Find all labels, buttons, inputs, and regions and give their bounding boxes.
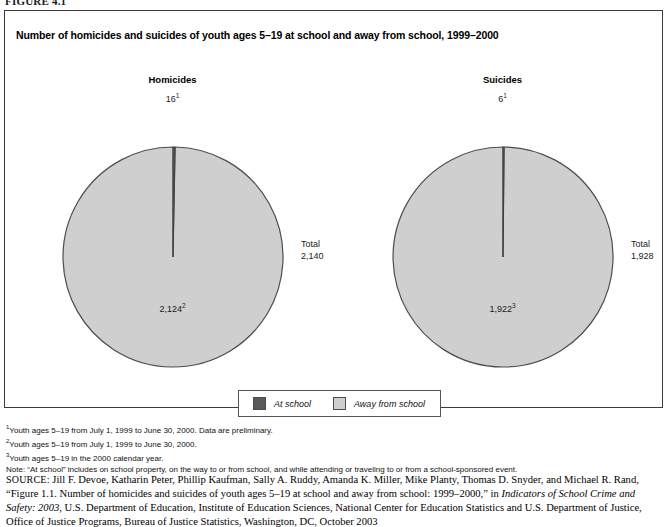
total-value-homicides: 2,140 xyxy=(301,251,324,261)
at-school-footnote-marker-homicides: 1 xyxy=(176,92,180,99)
source-text-2: , U.S. Department of Education, Institut… xyxy=(6,502,642,527)
away-from-school-value-suicides: 1,9223 xyxy=(335,302,669,314)
footnote-2: 2Youth ages 5–19 from July 1, 1999 to Ju… xyxy=(6,436,661,450)
legend-swatch-at-school-icon xyxy=(253,397,266,410)
away-number-suicides: 1,922 xyxy=(489,304,512,314)
chart-legend: At school Away from school xyxy=(238,390,441,417)
away-from-school-value-homicides: 2,1242 xyxy=(5,302,340,314)
total-word-homicides: Total xyxy=(301,239,320,249)
total-label-suicides: Total 1,928 xyxy=(631,239,654,262)
away-number-homicides: 2,124 xyxy=(159,304,182,314)
legend-label-at-school: At school xyxy=(274,399,311,409)
footnote-3: 3Youth ages 5–19 in the 2000 calendar ye… xyxy=(6,450,661,464)
source-label: SOURCE: xyxy=(6,474,50,485)
at-school-value-homicides: 161 xyxy=(5,92,340,104)
pie-chart-suicides xyxy=(392,146,614,368)
total-label-homicides: Total 2,140 xyxy=(301,239,324,262)
pie-svg-homicides xyxy=(62,146,284,368)
away-footnote-marker-suicides: 3 xyxy=(512,302,516,309)
legend-item-at-school: At school xyxy=(253,397,311,410)
footnotes-block: 1Youth ages 5–19 from July 1, 1999 to Ju… xyxy=(6,422,661,476)
figure-number: FIGURE 4.1 xyxy=(5,0,66,7)
pie-svg-suicides xyxy=(392,146,614,368)
pie-chart-homicides xyxy=(62,146,284,368)
total-value-suicides: 1,928 xyxy=(631,251,654,261)
legend-item-away-from-school: Away from school xyxy=(333,397,425,410)
legend-swatch-away-from-school-icon xyxy=(333,397,346,410)
at-school-footnote-marker-suicides: 1 xyxy=(503,92,507,99)
legend-label-away-from-school: Away from school xyxy=(354,399,425,409)
panel-title-homicides: Homicides xyxy=(5,74,340,85)
footnote-text-3: Youth ages 5–19 in the 2000 calendar yea… xyxy=(9,454,163,463)
footnote-1: 1Youth ages 5–19 from July 1, 1999 to Ju… xyxy=(6,422,661,436)
at-school-value-suicides: 61 xyxy=(335,92,669,104)
away-footnote-marker-homicides: 2 xyxy=(182,302,186,309)
figure-title: Number of homicides and suicides of yout… xyxy=(16,29,499,41)
source-block: SOURCE: Jill F. Devoe, Katharin Peter, P… xyxy=(6,473,663,527)
footnote-text-1: Youth ages 5–19 from July 1, 1999 to Jun… xyxy=(9,426,272,435)
at-school-number-homicides: 16 xyxy=(166,94,176,104)
figure-frame: Number of homicides and suicides of yout… xyxy=(4,10,663,408)
footnote-text-2: Youth ages 5–19 from July 1, 1999 to Jun… xyxy=(9,440,196,449)
total-word-suicides: Total xyxy=(631,239,650,249)
panel-title-suicides: Suicides xyxy=(335,74,669,85)
